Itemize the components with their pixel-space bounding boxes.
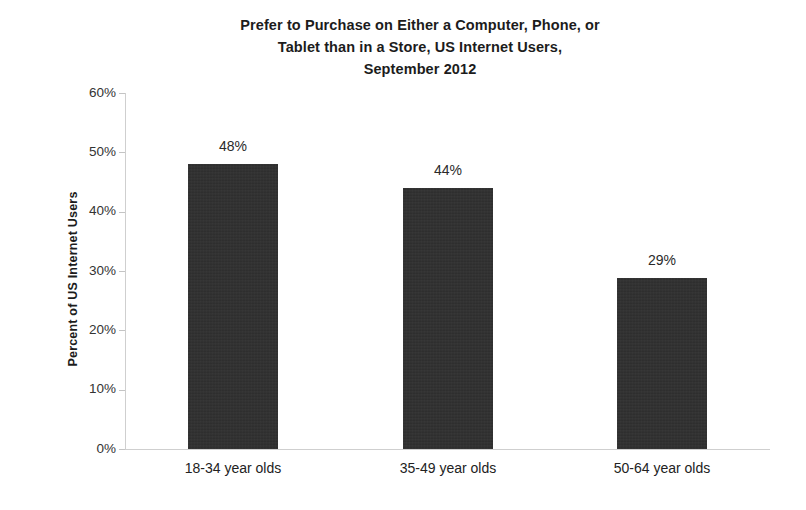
bar-value-35-49: 44% [393, 162, 503, 178]
bar-value-50-64: 29% [607, 252, 717, 268]
y-tick-label-30: 30% [60, 263, 116, 278]
y-tick-mark-30 [119, 271, 125, 272]
x-category-label-50-64: 50-64 year olds [572, 460, 752, 476]
x-category-label-35-49: 35-49 year olds [358, 460, 538, 476]
chart-title: Prefer to Purchase on Either a Computer,… [120, 14, 720, 80]
y-tick-label-50: 50% [60, 144, 116, 159]
y-tick-mark-10 [119, 390, 125, 391]
y-tick-label-0: 0% [60, 441, 116, 456]
y-tick-label-20: 20% [60, 322, 116, 337]
chart-page: Prefer to Purchase on Either a Computer,… [0, 0, 806, 510]
y-tick-mark-40 [119, 212, 125, 213]
y-tick-label-10: 10% [60, 381, 116, 396]
y-tick-mark-20 [119, 330, 125, 331]
y-tick-label-60: 60% [60, 85, 116, 100]
chart-title-line-1: Prefer to Purchase on Either a Computer,… [120, 14, 720, 36]
y-tick-mark-0 [119, 449, 125, 450]
chart-title-line-3: September 2012 [120, 58, 720, 80]
x-axis-line [125, 449, 770, 450]
bar-35-49[interactable] [403, 188, 493, 449]
y-tick-mark-60 [119, 93, 125, 94]
bar-value-18-34: 48% [178, 138, 288, 154]
bar-18-34[interactable] [188, 164, 278, 449]
y-tick-label-40: 40% [60, 203, 116, 218]
x-category-label-18-34: 18-34 year olds [143, 460, 323, 476]
y-axis-line [125, 93, 126, 449]
bar-50-64[interactable] [617, 278, 707, 449]
y-tick-mark-50 [119, 152, 125, 153]
chart-title-line-2: Tablet than in a Store, US Internet User… [120, 36, 720, 58]
